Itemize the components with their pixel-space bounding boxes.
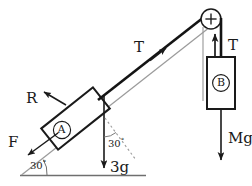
pulley-shape (201, 9, 221, 29)
incline-base-angle-label: 30° (30, 160, 46, 171)
friction-force-label: F (8, 135, 18, 150)
weight-angle-label: 30° (108, 138, 124, 149)
incline-base-angle-value: 30 (30, 160, 43, 171)
block-b-label: B (217, 77, 225, 88)
incline-base-angle-degree-symbol: ° (43, 159, 47, 167)
weight-angle-value: 30 (108, 138, 121, 149)
normal-force-arrow (44, 92, 66, 105)
weight-angle-degree-symbol: ° (121, 137, 125, 145)
rope-incline-segment (98, 14, 209, 101)
weight-a-label: 3g (110, 160, 129, 175)
tension-block-b-label: T (228, 38, 238, 53)
normal-force-label: R (26, 91, 37, 106)
block-a-label: A (58, 124, 66, 135)
weight-b-label: Mg (228, 131, 252, 146)
tension-arrow-on-rope (150, 48, 166, 61)
incline-surface (22, 27, 211, 175)
physics-diagram: R F T T 3g Mg A B 30° 30° (0, 0, 252, 186)
tension-rope-label: T (134, 40, 144, 55)
weight-angle-arc (104, 133, 116, 138)
